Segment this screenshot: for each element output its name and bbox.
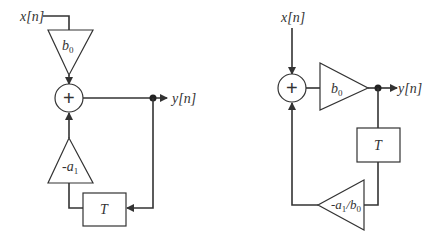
gain-b0-triangle	[320, 63, 368, 110]
delay-label: T	[100, 202, 109, 217]
right-diagram: x[n] + b0 y[n] T -a1/b0	[278, 10, 422, 230]
input-wire	[43, 16, 69, 30]
output-label: y[n]	[396, 81, 422, 96]
plus-icon: +	[286, 77, 298, 99]
output-label: y[n]	[170, 91, 196, 106]
block-diagrams: x[n] b0 + y[n] T -a1 x[n] + b0 y[n] T -a…	[0, 0, 445, 241]
input-label: x[n]	[280, 10, 305, 25]
left-diagram: x[n] b0 + y[n] T -a1	[19, 9, 196, 226]
input-label: x[n]	[19, 9, 44, 24]
delay-to-gain-wire	[364, 162, 378, 205]
feedback-to-adder-wire	[292, 103, 318, 205]
feedback-to-delay-wire	[127, 98, 153, 208]
delay-to-gain-wire	[69, 183, 83, 208]
delay-label: T	[374, 138, 383, 153]
plus-icon: +	[63, 87, 75, 109]
